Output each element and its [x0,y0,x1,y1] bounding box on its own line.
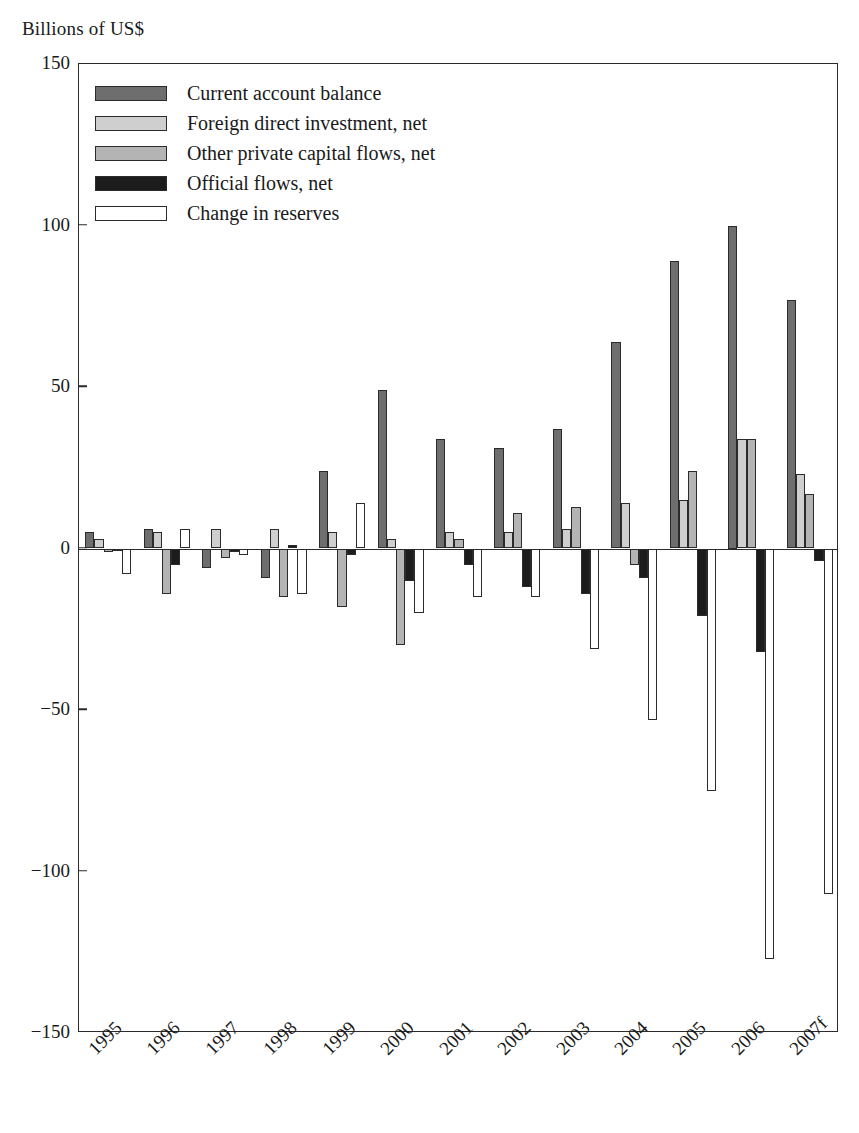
bar [378,390,387,548]
bar [328,532,337,548]
bar [814,549,823,562]
bar [94,539,103,549]
bar [230,549,239,552]
legend-item-other-private-capital-net[interactable]: Other private capital flows, net [95,138,435,168]
legend-label: Foreign direct investment, net [187,112,427,135]
bar-group [664,64,722,1031]
legend-label: Change in reserves [187,202,339,225]
bar [270,529,279,548]
bar [796,474,805,548]
legend-label: Other private capital flows, net [187,142,435,165]
bar [202,549,211,568]
bar [319,471,328,549]
bar [221,549,230,559]
bar [405,549,414,581]
bar [144,529,153,548]
bar-group [781,64,839,1031]
bar [396,549,405,646]
bar [337,549,346,607]
legend-swatch-icon [95,146,167,161]
legend-swatch-icon [95,176,167,191]
bar-group [547,64,605,1031]
legend-label: Current account balance [187,82,381,105]
y-axis-tick-label: −50 [40,698,70,720]
y-axis-tick-mark [78,224,87,226]
bar [679,500,688,548]
legend-item-change-in-reserves[interactable]: Change in reserves [95,198,435,228]
bar [445,532,454,548]
y-axis-tick-label: −150 [31,1021,70,1043]
bar [162,549,171,594]
bar [670,261,679,548]
legend-item-official-flows-net[interactable]: Official flows, net [95,168,435,198]
bar [171,549,180,565]
bar [728,226,737,549]
bar [513,513,522,549]
bar [697,549,706,617]
bar [688,471,697,549]
bar [347,549,356,555]
y-axis-tick-label: 100 [42,214,71,236]
y-axis-label-group: 150100500−50−100−150 [0,0,70,1133]
bar [590,549,599,649]
y-axis-tick-mark [78,708,87,710]
y-axis-tick-mark [78,547,87,549]
bar [279,549,288,597]
bar [261,549,270,578]
bar [297,549,306,594]
bar-group [488,64,546,1031]
y-axis-tick-label: 0 [61,537,71,559]
bar [122,549,131,575]
bar [436,439,445,549]
bar [571,507,580,549]
bar [104,549,113,552]
bar [805,494,814,549]
bar [522,549,531,588]
bar [113,549,122,551]
bar [787,300,796,549]
legend-label: Official flows, net [187,172,333,195]
y-axis-tick-label: −100 [31,860,70,882]
bar-group [430,64,488,1031]
y-axis-tick-mark [78,385,87,387]
bar [387,539,396,549]
bar [356,503,365,548]
bar [621,503,630,548]
legend-swatch-icon [95,86,167,101]
bar [765,549,774,959]
y-axis-tick-mark [78,870,87,872]
bar [414,549,423,614]
bar [153,532,162,548]
bar-group [605,64,663,1031]
bar [288,545,297,548]
bar [239,549,248,555]
legend-swatch-icon [95,116,167,131]
bar [464,549,473,565]
bar [737,439,746,549]
bar [180,529,189,548]
bar [581,549,590,594]
chart-legend: Current account balanceForeign direct in… [95,78,435,228]
bar [639,549,648,578]
bar [707,549,716,791]
bar [630,549,639,565]
bar [531,549,540,597]
bar [454,539,463,549]
bar [494,448,503,548]
bar [824,549,833,895]
bar-group [722,64,780,1031]
bar [611,342,620,549]
bar [553,429,562,549]
bar [648,549,657,720]
bar [504,532,513,548]
legend-item-current-account-balance[interactable]: Current account balance [95,78,435,108]
bar [473,549,482,597]
legend-item-fdi-net[interactable]: Foreign direct investment, net [95,108,435,138]
legend-swatch-icon [95,206,167,221]
bar [562,529,571,548]
bar [211,529,220,548]
y-axis-tick-label: 50 [51,375,70,397]
bar [747,439,756,549]
y-axis-tick-label: 150 [42,52,71,74]
bar [756,549,765,652]
